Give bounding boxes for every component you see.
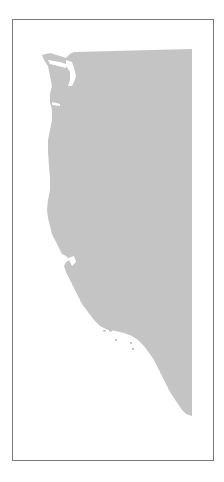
west-coast-map xyxy=(0,0,224,482)
land-region xyxy=(42,49,192,416)
